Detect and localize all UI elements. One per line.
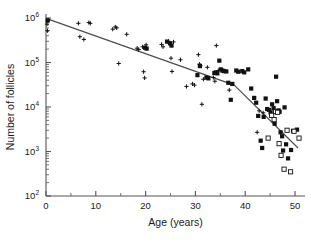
series-open-square-marker	[266, 109, 301, 173]
data-point	[282, 105, 286, 109]
data-point	[142, 70, 146, 74]
x-axis-title: Age (years)	[148, 216, 202, 228]
data-point	[236, 70, 240, 74]
y-axis-tick-label: 102	[25, 189, 40, 201]
data-point	[215, 71, 219, 75]
data-point	[280, 134, 284, 138]
data-point	[125, 32, 129, 36]
data-point	[284, 142, 288, 146]
y-axis-tick-label: 103	[25, 145, 40, 157]
data-point	[145, 47, 149, 51]
data-point	[288, 170, 292, 174]
data-point	[169, 56, 173, 60]
x-axis-tick-label: 10	[91, 200, 102, 211]
data-point	[214, 43, 218, 47]
y-axis-tick-label: 106	[25, 11, 40, 23]
data-point	[229, 98, 233, 102]
data-point	[117, 61, 121, 65]
data-point	[252, 96, 256, 100]
data-point	[206, 76, 210, 80]
data-point	[255, 130, 259, 134]
data-point	[297, 136, 301, 140]
x-axis-tick-label: 30	[190, 200, 201, 211]
y-axis-tick-label: 104	[25, 100, 40, 112]
data-point	[143, 76, 147, 80]
data-point	[257, 109, 261, 113]
data-point	[274, 75, 278, 79]
data-point	[277, 142, 281, 146]
data-point	[224, 69, 228, 73]
x-axis-tick-label: 50	[290, 200, 301, 211]
data-point	[276, 110, 280, 114]
data-point	[256, 114, 260, 118]
data-point	[195, 73, 199, 77]
data-point	[285, 128, 289, 132]
data-point	[178, 58, 182, 62]
data-point	[200, 102, 204, 106]
y-axis-tick-label: 105	[25, 56, 40, 68]
data-point	[226, 81, 230, 85]
data-point	[198, 64, 202, 68]
data-point	[264, 96, 268, 100]
data-point	[254, 101, 258, 105]
data-point	[78, 35, 82, 39]
data-point	[292, 129, 296, 133]
data-point	[289, 148, 293, 152]
data-point	[278, 130, 282, 134]
data-point	[76, 21, 80, 25]
data-point	[282, 167, 286, 171]
data-point	[270, 102, 274, 106]
x-axis-tick-label: 20	[140, 200, 151, 211]
data-point	[279, 153, 283, 157]
follicle-count-chart: 10210310410510601020304050Age (years)Num…	[0, 0, 311, 244]
x-axis-tick-label: 40	[240, 200, 251, 211]
data-point	[170, 69, 174, 73]
data-point	[213, 79, 217, 83]
y-axis-title: Number of follicles	[4, 64, 16, 150]
x-axis-tick-label: 0	[43, 200, 48, 211]
data-point	[242, 70, 246, 74]
data-point	[246, 67, 250, 71]
series-plus-marker	[45, 18, 265, 134]
data-point	[82, 37, 86, 41]
data-point	[259, 139, 263, 143]
data-point	[205, 65, 209, 69]
data-point	[217, 59, 221, 63]
data-point	[266, 136, 270, 140]
data-point	[196, 53, 200, 57]
data-point	[281, 148, 285, 152]
chart-canvas: 10210310410510601020304050Age (years)Num…	[0, 0, 311, 244]
data-point	[272, 118, 276, 122]
data-point	[249, 86, 253, 90]
data-point	[262, 115, 266, 119]
data-point	[227, 88, 231, 92]
data-point	[184, 84, 188, 88]
data-point	[111, 27, 115, 31]
data-point	[211, 75, 215, 79]
data-point	[46, 18, 50, 22]
data-point	[286, 156, 290, 160]
data-point	[275, 99, 279, 103]
data-point	[230, 82, 234, 86]
data-point	[273, 122, 277, 126]
data-point	[169, 43, 173, 47]
data-point	[260, 146, 264, 150]
